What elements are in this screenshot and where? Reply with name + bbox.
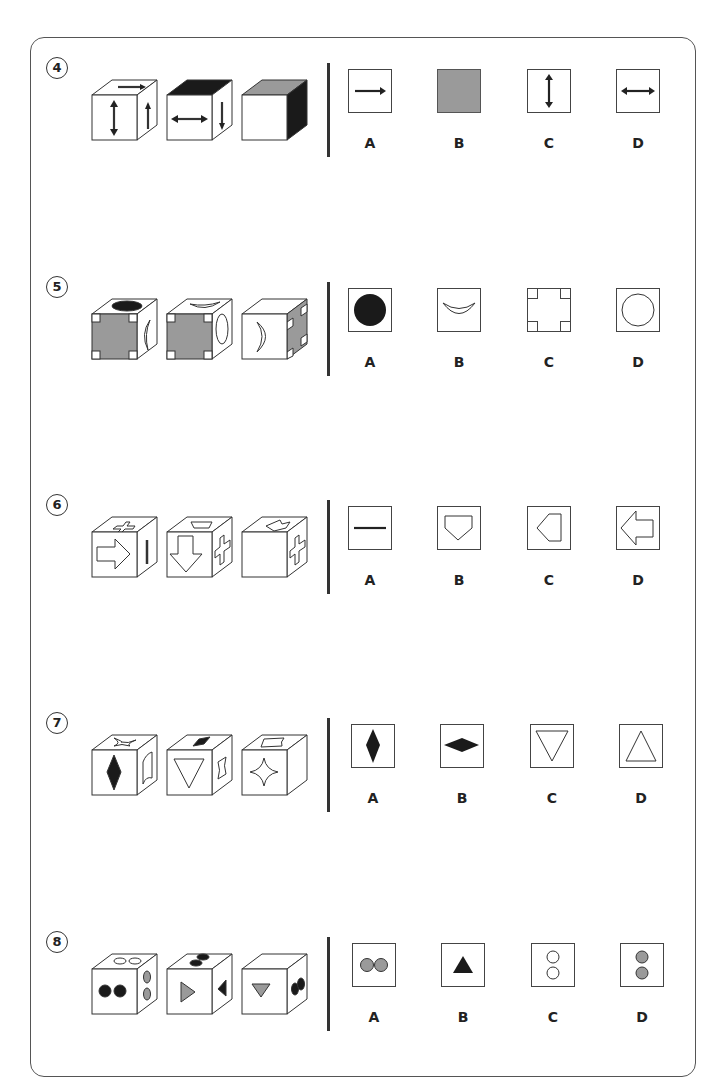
question-6: 6 [0, 494, 708, 604]
option-a-label: A [348, 135, 392, 151]
option-a[interactable] [352, 943, 396, 987]
option-c-label: C [527, 354, 571, 370]
option-b[interactable] [437, 506, 481, 550]
option-a-label: A [348, 572, 392, 588]
option-b[interactable] [440, 724, 484, 768]
cube-1 [92, 517, 157, 577]
option-c[interactable] [527, 506, 571, 550]
option-b-label: B [441, 1009, 485, 1025]
cube-2 [167, 80, 232, 140]
cube-views [90, 504, 320, 584]
question-number: 4 [46, 57, 68, 79]
cube-1 [92, 80, 157, 140]
cube-1 [92, 735, 157, 795]
option-d[interactable] [616, 69, 660, 113]
option-c-label: C [527, 572, 571, 588]
cube-3 [242, 80, 307, 140]
option-a[interactable] [348, 69, 392, 113]
divider [327, 282, 330, 376]
option-d-label: D [620, 1009, 664, 1025]
option-a-label: A [352, 1009, 396, 1025]
cube-2 [167, 299, 232, 359]
question-7: 7 [0, 712, 708, 822]
cube-3 [242, 954, 307, 1014]
option-d[interactable] [619, 724, 663, 768]
option-b-label: B [437, 135, 481, 151]
option-d-label: D [616, 135, 660, 151]
option-c[interactable] [531, 943, 575, 987]
cube-2 [167, 954, 232, 1014]
cube-1 [92, 299, 157, 359]
question-number: 5 [46, 276, 68, 298]
option-a[interactable] [348, 288, 392, 332]
cube-2 [167, 517, 232, 577]
option-d-label: D [616, 572, 660, 588]
option-b[interactable] [437, 288, 481, 332]
question-4: 4 [0, 57, 708, 167]
cube-views [90, 67, 320, 147]
cube-2 [167, 735, 232, 795]
option-b[interactable] [437, 69, 481, 113]
cube-3 [242, 299, 307, 359]
question-5: 5 [0, 276, 708, 386]
option-a-label: A [348, 354, 392, 370]
option-a[interactable] [351, 724, 395, 768]
option-c-label: C [527, 135, 571, 151]
option-c[interactable] [530, 724, 574, 768]
question-8: 8 [0, 931, 708, 1041]
divider [327, 718, 330, 812]
option-a[interactable] [348, 506, 392, 550]
option-c[interactable] [527, 69, 571, 113]
cube-views [90, 941, 320, 1021]
cube-1 [92, 954, 157, 1014]
cube-3 [242, 517, 307, 577]
option-c[interactable] [527, 288, 571, 332]
option-d[interactable] [616, 506, 660, 550]
divider [327, 500, 330, 594]
option-b[interactable] [441, 943, 485, 987]
cube-views [90, 286, 320, 366]
cube-3 [242, 735, 307, 795]
option-b-label: B [440, 790, 484, 806]
option-d[interactable] [620, 943, 664, 987]
question-number: 7 [46, 712, 68, 734]
option-c-label: C [531, 1009, 575, 1025]
option-d-label: D [616, 354, 660, 370]
option-b-label: B [437, 354, 481, 370]
divider [327, 63, 330, 157]
option-b-label: B [437, 572, 481, 588]
option-c-label: C [530, 790, 574, 806]
option-a-label: A [351, 790, 395, 806]
cube-views [90, 722, 320, 802]
divider [327, 937, 330, 1031]
option-d-label: D [619, 790, 663, 806]
question-number: 8 [46, 931, 68, 953]
option-d[interactable] [616, 288, 660, 332]
question-number: 6 [46, 494, 68, 516]
